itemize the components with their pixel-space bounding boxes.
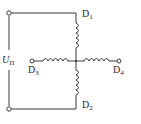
d3-index: 3	[35, 69, 39, 77]
label-d3: D3	[28, 65, 39, 77]
terminal-top-left	[7, 11, 11, 15]
label-d4: D4	[113, 65, 124, 77]
terminal-d3	[30, 59, 34, 63]
wire-top	[11, 13, 76, 23]
source-subscript: П	[9, 59, 14, 67]
coil-d1	[76, 23, 79, 61]
d4-index: 4	[120, 69, 124, 77]
coil-d4	[76, 59, 117, 62]
terminal-bottom-left	[7, 107, 11, 111]
circuit-diagram	[0, 0, 141, 124]
d2-index: 2	[89, 104, 93, 112]
terminal-d4	[117, 59, 121, 63]
junction-dot	[75, 60, 77, 62]
d1-index: 1	[89, 13, 93, 21]
label-d1: D1	[82, 9, 93, 21]
coil-d2	[76, 61, 79, 109]
coil-d3	[34, 59, 76, 62]
label-source: UП	[2, 55, 14, 67]
label-d2: D2	[82, 100, 93, 112]
